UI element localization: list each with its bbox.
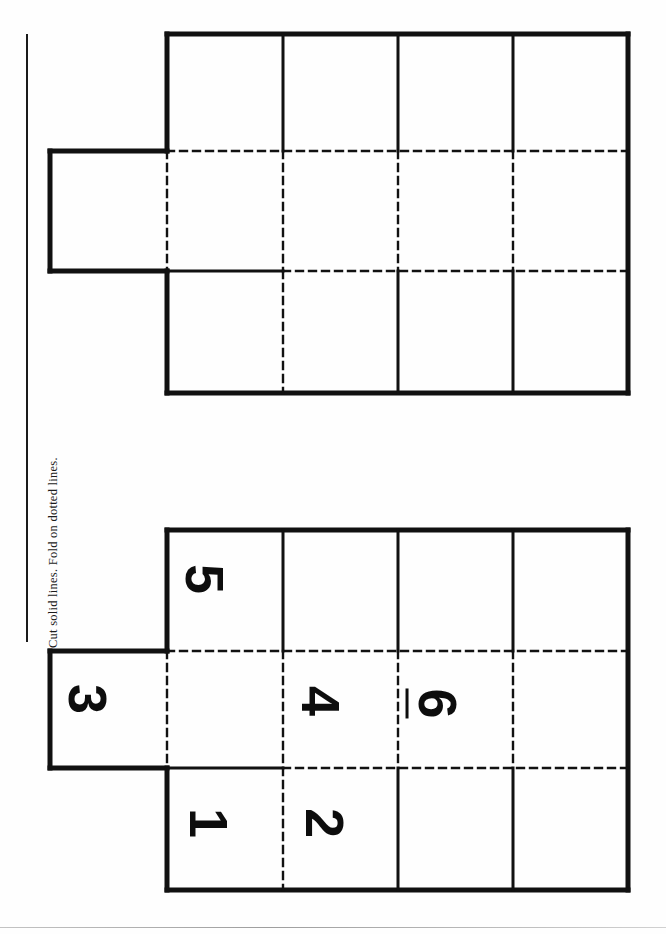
blank-net — [0, 0, 666, 470]
cell-number-6: 6 — [406, 688, 465, 718]
cell-number-1: 1 — [182, 808, 236, 838]
scan-artifact-line — [0, 927, 666, 928]
cell-number-5: 5 — [178, 564, 232, 594]
cell-number-2: 2 — [298, 808, 352, 838]
worksheet-page: Cut solid lines. Fold on dotted lines. — [0, 0, 666, 934]
numbered-net: 5 3 4 6 1 2 — [0, 496, 666, 934]
cell-number-4: 4 — [294, 686, 348, 716]
cell-number-6-glyph: 6 — [408, 688, 468, 718]
cell-number-3: 3 — [61, 684, 115, 714]
blank-net-svg — [0, 0, 666, 470]
